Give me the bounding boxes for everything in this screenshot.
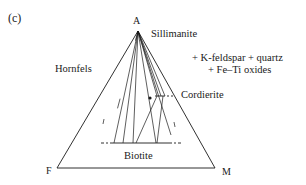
dashed-tick-right [174,122,175,127]
cordierite-label: Cordierite [181,90,224,101]
additional-phases-line2: + Fe–Ti oxides [208,65,271,76]
vertex-a-label: A [133,16,140,26]
sillimanite-biotite-tielines [111,31,171,143]
biotite-label: Biotite [124,151,153,162]
dashed-tick-left [103,119,104,124]
vertex-m-label: M [222,167,231,177]
additional-phases-line1: + K-feldspar + quartz [192,53,283,64]
hornfels-label: Hornfels [55,64,92,75]
vertex-f-label: F [46,166,52,176]
afm-diagram: (c) A F M Sillimanite Cordierite Biotite… [0,0,306,185]
panel-label: (c) [8,12,21,24]
sillimanite-label: Sillimanite [151,29,197,40]
bulk-composition-point [148,96,151,99]
sillimanite-cordierite-tielines [138,31,165,96]
